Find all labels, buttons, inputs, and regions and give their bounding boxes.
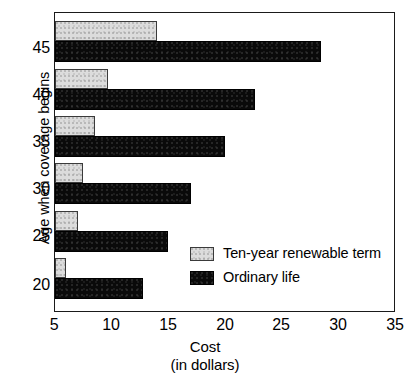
legend-label-term: Ten-year renewable term (223, 246, 381, 261)
x-axis-subtitle: (in dollars) (0, 356, 410, 373)
chart-legend: Ten-year renewable term Ordinary life (190, 243, 381, 291)
bar-term-20 (55, 258, 66, 278)
legend-swatch-term-icon (190, 247, 214, 261)
y-tick-label-45: 45 (4, 40, 50, 56)
x-tick-label-30: 30 (318, 316, 358, 334)
bar-chart: Age when coverage begins 45 40 35 30 25 … (0, 0, 410, 378)
bar-term-45 (55, 21, 157, 41)
y-tick-label-20: 20 (4, 277, 50, 293)
bar-term-30 (55, 163, 83, 183)
bar-ordinary-35 (55, 136, 225, 157)
x-tick-label-15: 15 (148, 316, 188, 334)
x-tick-label-25: 25 (261, 316, 301, 334)
bar-term-40 (55, 69, 108, 89)
x-axis-title: Cost (0, 338, 410, 355)
y-tick-label-40: 40 (4, 87, 50, 103)
bar-ordinary-40 (55, 89, 255, 110)
x-axis-tick-labels: 5 10 15 20 25 30 35 (0, 316, 410, 340)
bar-ordinary-45 (55, 41, 321, 62)
bar-ordinary-30 (55, 183, 191, 204)
bar-ordinary-20 (55, 278, 143, 299)
x-tick-label-10: 10 (91, 316, 131, 334)
x-tick-label-35: 35 (375, 316, 410, 334)
x-tick-label-20: 20 (205, 316, 245, 334)
y-tick-label-30: 30 (4, 181, 50, 197)
legend-swatch-ordinary-icon (190, 271, 214, 285)
y-tick-label-25: 25 (4, 228, 50, 244)
y-axis-tick-labels: 45 40 35 30 25 20 (0, 0, 50, 320)
bar-term-25 (55, 211, 78, 231)
legend-item-term: Ten-year renewable term (190, 243, 381, 264)
y-tick-label-35: 35 (4, 134, 50, 150)
legend-item-ordinary: Ordinary life (190, 267, 381, 288)
legend-label-ordinary: Ordinary life (223, 270, 300, 285)
x-tick-label-5: 5 (34, 316, 74, 334)
bar-term-35 (55, 116, 95, 136)
bar-ordinary-25 (55, 231, 168, 252)
